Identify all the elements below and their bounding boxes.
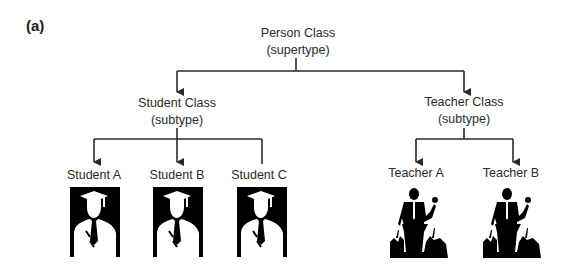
graduate-silhouette-icon <box>70 187 120 257</box>
student-a-label: Student A <box>59 168 129 182</box>
lecturer-podium-silhouette-icon <box>390 186 450 258</box>
student-class-title: Student Class <box>122 95 232 112</box>
student-class-role: (subtype) <box>122 112 232 129</box>
person-class-title: Person Class <box>248 25 348 42</box>
student-b-label: Student B <box>142 168 212 182</box>
teacher-a-label: Teacher A <box>381 166 451 180</box>
lecturer-podium-silhouette-icon <box>483 186 543 258</box>
student-class-node: Student Class (subtype) <box>122 95 232 129</box>
graduate-silhouette-icon <box>237 187 287 257</box>
student-c-label: Student C <box>224 168 294 182</box>
person-class-role: (supertype) <box>248 42 348 59</box>
teacher-b-label: Teacher B <box>476 166 546 180</box>
teacher-class-role: (subtype) <box>408 111 520 128</box>
teacher-class-title: Teacher Class <box>408 94 520 111</box>
person-class-node: Person Class (supertype) <box>248 25 348 59</box>
graduate-silhouette-icon <box>153 187 203 257</box>
teacher-class-node: Teacher Class (subtype) <box>408 94 520 128</box>
